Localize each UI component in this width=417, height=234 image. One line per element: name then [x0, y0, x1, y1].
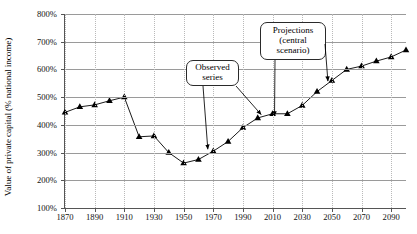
- y-tick-label: 400%: [15, 120, 57, 130]
- y-gridline: [65, 42, 406, 43]
- y-tick-label: 600%: [15, 64, 57, 74]
- y-axis-title: Value of private capital (% national inc…: [0, 0, 16, 234]
- x-tick-label: 2090: [371, 212, 411, 222]
- y-gridline: [65, 153, 406, 154]
- x-gridline: [184, 14, 185, 208]
- x-gridline: [391, 14, 392, 208]
- y-tick-label: 200%: [15, 175, 57, 185]
- series-layer: [65, 14, 406, 208]
- x-gridline: [65, 14, 66, 208]
- x-gridline: [124, 14, 125, 208]
- annotation-projections: Projections (central scenario): [260, 22, 326, 60]
- data-point-marker: [136, 133, 143, 139]
- y-tick-label: 300%: [15, 148, 57, 158]
- annotation-observed-series: Observed series: [186, 60, 239, 86]
- y-gridline: [65, 14, 406, 15]
- y-gridline: [65, 180, 406, 181]
- x-gridline: [243, 14, 244, 208]
- data-point-marker: [314, 88, 321, 94]
- chart-figure: Value of private capital (% national inc…: [0, 0, 417, 234]
- annotation-projections-line-3: scenario): [277, 46, 310, 56]
- data-point-marker: [284, 110, 291, 116]
- x-gridline: [213, 14, 214, 208]
- annotation-observed-line-2: series: [202, 73, 223, 83]
- data-point-marker: [403, 46, 410, 52]
- x-gridline: [154, 14, 155, 208]
- x-gridline: [332, 14, 333, 208]
- y-tick-label: 800%: [15, 9, 57, 19]
- x-gridline: [95, 14, 96, 208]
- data-point-marker: [195, 156, 202, 162]
- y-gridline: [65, 125, 406, 126]
- plot-area: 800%700%600%500%400%300%200%100%18701890…: [64, 14, 406, 209]
- x-gridline: [362, 14, 363, 208]
- y-gridline: [65, 97, 406, 98]
- y-tick-label: 700%: [15, 37, 57, 47]
- y-tick-label: 500%: [15, 92, 57, 102]
